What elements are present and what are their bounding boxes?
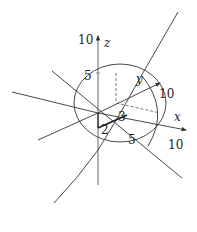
lower-left-line: [38, 113, 98, 140]
long-diagonal-line: [54, 12, 178, 203]
x-label-5: 5: [128, 133, 136, 147]
z-label-5: 5: [84, 69, 92, 83]
left-line: [12, 92, 98, 113]
y-axis-label: y: [135, 72, 143, 86]
y-axis: [98, 83, 160, 113]
segment-label-2: 2: [101, 123, 109, 137]
z-label-10: 10: [78, 33, 93, 47]
segment-label-3: 3: [118, 110, 126, 124]
right-arc: [142, 76, 158, 146]
diagram-canvas: 10 z 5 y 10 x 5 10 2 3: [0, 0, 197, 232]
x-label-10: 10: [168, 138, 183, 152]
z-axis-label: z: [103, 36, 111, 50]
y-label-10: 10: [159, 87, 174, 101]
x-axis-label: x: [174, 110, 181, 124]
